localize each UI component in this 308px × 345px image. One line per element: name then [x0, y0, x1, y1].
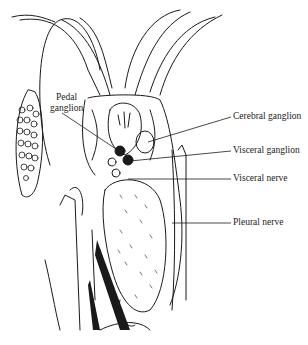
anatomy-diagram: Pedal ganglion Cerebral ganglion Viscera… [0, 0, 308, 345]
pedal-ganglion-label-line2: ganglion [50, 103, 83, 114]
pleural-nerve-label: Pleural nerve [233, 217, 283, 228]
pedal-ganglion-label: Pedal ganglion [50, 92, 83, 114]
cerebral-ganglion-leader [148, 117, 231, 142]
pedal-ganglion-label-line1: Pedal [50, 92, 83, 103]
pedal-ganglion-leader [62, 113, 119, 151]
cerebral-ganglion-label: Cerebral ganglion [233, 111, 301, 122]
visceral-ganglion-label: Visceral ganglion [233, 145, 300, 156]
visceral-nerve-label: Visceral nerve [233, 173, 288, 184]
